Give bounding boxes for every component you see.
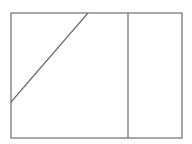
diagram-canvas bbox=[0, 0, 192, 144]
outer-rectangle bbox=[11, 13, 182, 138]
line-diagram bbox=[0, 0, 192, 144]
diagonal-line bbox=[11, 13, 88, 102]
